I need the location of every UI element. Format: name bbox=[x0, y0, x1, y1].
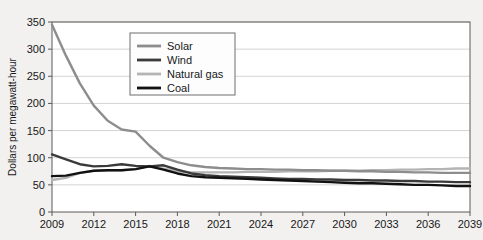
x-tick-label: 2030 bbox=[332, 218, 356, 230]
y-tick-label: 50 bbox=[33, 179, 45, 191]
legend-label-coal: Coal bbox=[167, 82, 190, 94]
y-axis: 050100150200250300350 bbox=[27, 16, 52, 218]
x-tick-label: 2012 bbox=[82, 218, 106, 230]
legend-label-solar: Solar bbox=[167, 40, 193, 52]
x-tick-label: 2027 bbox=[291, 218, 315, 230]
line-chart: 050100150200250300350Dollars per megawat… bbox=[0, 0, 483, 240]
x-tick-label: 2015 bbox=[123, 218, 147, 230]
y-tick-label: 100 bbox=[27, 152, 45, 164]
legend-label-wind: Wind bbox=[167, 54, 192, 66]
y-axis-title: Dollars per megawatt-hour bbox=[7, 57, 18, 175]
y-tick-label: 250 bbox=[27, 70, 45, 82]
y-tick-label: 300 bbox=[27, 43, 45, 55]
x-tick-label: 2024 bbox=[249, 218, 273, 230]
x-tick-label: 2036 bbox=[416, 218, 440, 230]
y-tick-label: 200 bbox=[27, 97, 45, 109]
x-tick-label: 2021 bbox=[207, 218, 231, 230]
y-tick-label: 150 bbox=[27, 125, 45, 137]
x-tick-label: 2018 bbox=[165, 218, 189, 230]
x-tick-label: 2009 bbox=[40, 218, 64, 230]
x-tick-label: 2033 bbox=[374, 218, 398, 230]
x-tick-label: 2039 bbox=[458, 218, 482, 230]
chart-figure: 050100150200250300350Dollars per megawat… bbox=[0, 0, 483, 240]
y-tick-label: 350 bbox=[27, 16, 45, 28]
y-tick-label: 0 bbox=[39, 206, 45, 218]
legend: SolarWindNatural gasCoal bbox=[130, 33, 235, 95]
x-axis: 2009201220152018202120242027203020332036… bbox=[40, 212, 482, 230]
legend-label-natural-gas: Natural gas bbox=[167, 68, 224, 80]
